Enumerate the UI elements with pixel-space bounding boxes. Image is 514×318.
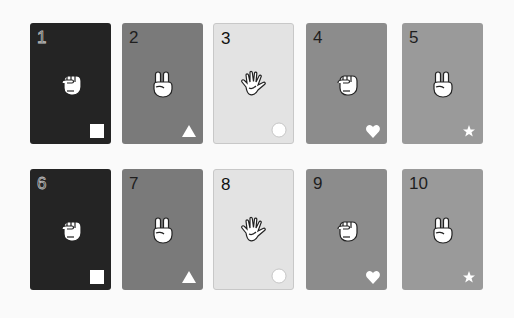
card-number: 7 <box>129 174 138 194</box>
card-4[interactable]: 4 <box>306 23 387 144</box>
scissors-peace-hand-icon <box>428 215 458 245</box>
circle-icon <box>271 268 287 284</box>
rock-fist-hand-icon <box>332 215 362 245</box>
rock-fist-hand-icon <box>56 215 86 245</box>
square-icon <box>89 123 105 139</box>
card-2[interactable]: 2 <box>122 23 203 144</box>
heart-icon <box>365 269 381 285</box>
card-6[interactable]: 6 <box>30 169 111 290</box>
card-1[interactable]: 1 <box>30 23 111 144</box>
card-8[interactable]: 8 <box>213 169 294 290</box>
card-10[interactable]: 10 <box>402 169 483 290</box>
paper-open-hand-icon <box>239 215 269 245</box>
heart-icon <box>365 123 381 139</box>
triangle-icon <box>181 123 197 139</box>
card-number: 9 <box>313 174 322 194</box>
card-7[interactable]: 7 <box>122 169 203 290</box>
card-number: 6 <box>37 174 46 194</box>
paper-open-hand-icon <box>239 69 269 99</box>
card-number: 3 <box>221 29 230 49</box>
rock-fist-hand-icon <box>56 69 86 99</box>
circle-icon <box>271 122 287 138</box>
scissors-peace-hand-icon <box>148 69 178 99</box>
scissors-peace-hand-icon <box>148 215 178 245</box>
star-icon <box>461 269 477 285</box>
card-9[interactable]: 9 <box>306 169 387 290</box>
card-number: 8 <box>221 175 230 195</box>
card-3[interactable]: 3 <box>213 23 294 144</box>
card-5[interactable]: 5 <box>402 23 483 144</box>
triangle-icon <box>181 269 197 285</box>
card-number: 2 <box>129 28 138 48</box>
card-number: 4 <box>313 28 322 48</box>
square-icon <box>89 269 105 285</box>
card-number: 10 <box>409 174 428 194</box>
star-icon <box>461 123 477 139</box>
scissors-peace-hand-icon <box>428 69 458 99</box>
card-number: 1 <box>37 28 46 48</box>
card-number: 5 <box>409 28 418 48</box>
rock-fist-hand-icon <box>332 69 362 99</box>
